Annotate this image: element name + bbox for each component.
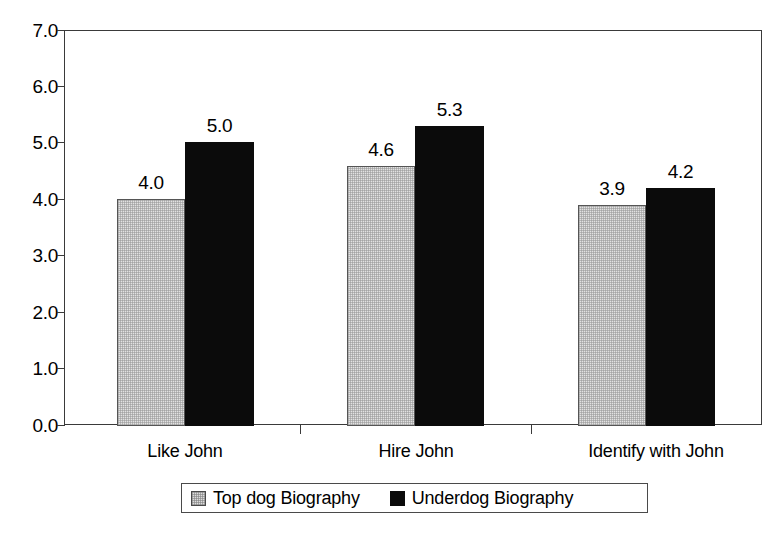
bar-value-identify-with-john-top-dog: 3.9 <box>578 179 646 198</box>
bar-chart: 7.0 6.0 5.0 4.0 3.0 2.0 1.0 0.0 4.0 5.0 … <box>0 0 779 538</box>
bar-hire-john-top-dog[interactable] <box>347 166 415 426</box>
legend-swatch-light-icon <box>191 491 206 506</box>
bar-value-like-john-underdog: 5.0 <box>185 116 254 135</box>
chart-legend: Top dog Biography Underdog Biography <box>181 483 648 513</box>
legend-item-underdog-biography[interactable]: Underdog Biography <box>390 488 574 508</box>
bar-identify-with-john-underdog[interactable] <box>646 188 715 426</box>
legend-item-top-dog-biography[interactable]: Top dog Biography <box>191 488 360 508</box>
bar-hire-john-underdog[interactable] <box>415 126 484 426</box>
legend-label-underdog-biography: Underdog Biography <box>412 488 574 508</box>
x-axis-label-hire-john: Hire John <box>336 440 496 462</box>
bar-value-hire-john-underdog: 5.3 <box>415 100 484 119</box>
x-tick-mark-2 <box>531 425 532 434</box>
bar-value-identify-with-john-underdog: 4.2 <box>646 162 715 181</box>
bar-like-john-top-dog[interactable] <box>117 199 185 426</box>
legend-label-top-dog-biography: Top dog Biography <box>213 488 360 508</box>
bar-identify-with-john-top-dog[interactable] <box>578 205 646 426</box>
x-axis-label-identify-with-john: Identify with John <box>556 440 756 462</box>
x-tick-mark-1 <box>300 425 301 434</box>
bar-like-john-underdog[interactable] <box>185 142 254 426</box>
x-axis-label-like-john: Like John <box>105 440 265 462</box>
bar-value-hire-john-top-dog: 4.6 <box>347 140 415 159</box>
bar-value-like-john-top-dog: 4.0 <box>117 173 185 192</box>
legend-swatch-dark-icon <box>390 491 405 506</box>
